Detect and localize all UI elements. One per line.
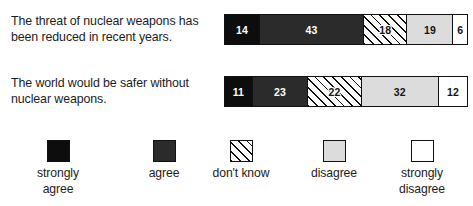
bar-segment-dont-know: 18 [363,15,407,44]
legend-item-strongly-agree: strongly agree [10,140,106,197]
segment-value: 14 [236,24,248,36]
segment-value: 11 [233,86,244,98]
bar-segment-dont-know: 22 [307,77,360,106]
bar-segment-strongly-agree: 11 [225,77,252,106]
bar-segment-strongly-disagree: 12 [438,77,467,106]
bar-segment-disagree: 19 [406,15,452,44]
bar-segment-agree: 43 [259,15,363,44]
stacked-bar: 14 43 18 19 6 [224,14,468,45]
bar-segment-agree: 23 [252,77,308,106]
stacked-bar: 11 23 22 32 12 [224,76,468,107]
bar-segment-disagree: 32 [361,77,438,106]
legend-item-strongly-disagree: strongly disagree [374,140,470,197]
legend-item-dont-know: don't know [193,140,289,182]
segment-value: 12 [447,86,459,98]
legend-item-disagree: disagree [286,140,382,182]
legend-label: strongly agree [10,166,106,197]
segment-value: 18 [379,24,391,36]
segment-value: 23 [274,86,286,98]
legend-swatch-agree [153,140,176,162]
bar-segment-strongly-disagree: 6 [452,15,467,44]
bar-segment-strongly-agree: 14 [225,15,259,44]
legend-swatch-disagree [323,140,346,162]
legend-swatch-dont-know [230,140,253,162]
question-label: The world would be safer without nuclear… [11,76,217,107]
chart-legend: strongly agree agree don't know disagree… [0,140,473,206]
legend-label: strongly disagree [374,166,470,197]
segment-value: 19 [424,24,436,36]
segment-value: 22 [328,86,340,98]
segment-value: 43 [305,24,317,36]
legend-swatch-strongly-disagree [411,140,434,162]
segment-value: 6 [457,24,463,36]
legend-swatch-strongly-agree [47,140,70,162]
legend-label: don't know [193,166,289,182]
question-label: The threat of nuclear weapons has been r… [11,14,217,45]
segment-value: 32 [394,86,406,98]
legend-label: disagree [286,166,382,182]
